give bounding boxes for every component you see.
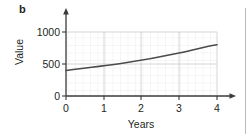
- panel-letter: b: [19, 3, 26, 15]
- page-margin-rule: [245, 8, 246, 134]
- y-axis-title: Value: [13, 25, 25, 79]
- x-tick-label-4: 4: [209, 102, 225, 114]
- x-tick-label-1: 1: [96, 102, 112, 114]
- x-axis-arrow-icon: [230, 93, 237, 99]
- y-axis-arrow-icon: [63, 8, 69, 15]
- y-tick-label-0: 0: [12, 90, 60, 102]
- x-tick-label-0: 0: [58, 102, 74, 114]
- figure-panel-b: b: [0, 0, 252, 138]
- x-axis-title: Years: [96, 118, 186, 130]
- x-tick-label-2: 2: [133, 102, 149, 114]
- x-tick-label-3: 3: [171, 102, 187, 114]
